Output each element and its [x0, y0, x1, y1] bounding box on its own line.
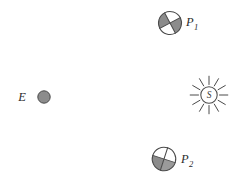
body-sun: S	[190, 76, 228, 114]
planet-1-label: P	[185, 15, 194, 29]
earth-label: E	[17, 90, 26, 104]
planet-2-subscript: 2	[189, 159, 194, 169]
body-earth: E	[17, 90, 50, 104]
body-planet-1: P 1	[154, 7, 198, 38]
body-planet-2: P 2	[149, 144, 194, 174]
sun-icon: S	[190, 76, 228, 114]
planet-2-label: P	[180, 152, 189, 166]
planet-1-subscript: 1	[194, 22, 198, 32]
astronomy-diagram: E P 1	[0, 0, 233, 190]
quartered-circle-icon	[149, 144, 179, 174]
sun-label: S	[207, 90, 212, 100]
diagram-canvas: E P 1	[0, 0, 233, 190]
quartered-circle-icon	[154, 7, 185, 38]
filled-circle-icon	[38, 91, 50, 103]
